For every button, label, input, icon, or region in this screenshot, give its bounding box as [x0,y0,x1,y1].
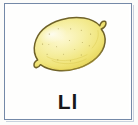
card-frame-shadow-right [133,5,134,121]
flashcard-root: Ll [0,0,138,125]
letter-label: Ll [58,91,79,112]
lemon-illustration [5,6,131,84]
card-frame-shadow-bottom [6,121,134,122]
letter-label-row: Ll [5,84,131,118]
